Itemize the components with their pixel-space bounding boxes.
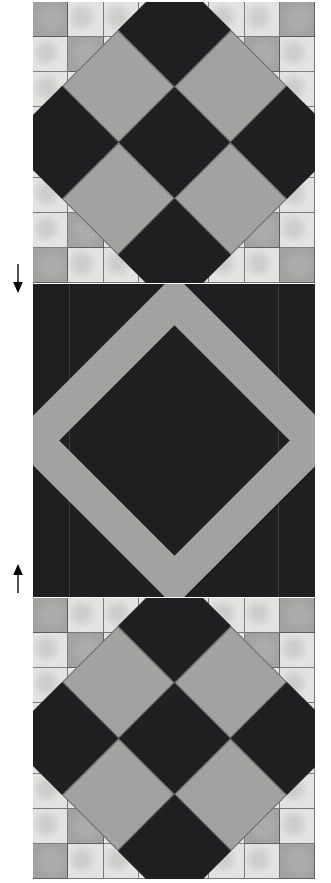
quilt-cell-r0-c0 [33, 598, 68, 633]
quilt-cell-r7-c7 [280, 248, 315, 283]
quilt-cell-r0-c6 [245, 2, 280, 37]
up-arrow-icon [10, 563, 26, 593]
quilt-cell-r7-c1 [68, 248, 103, 283]
quilt-cell-r0-c1 [68, 598, 103, 633]
quilt-cell-r1-c0 [33, 37, 68, 72]
quilt-cell-r7-c7 [280, 844, 315, 879]
down-arrow-icon [10, 264, 26, 294]
quilt-cell-r0-c0 [33, 2, 68, 37]
quilt-cell-r0-c7 [280, 598, 315, 633]
quilt-cell-r0-c7 [280, 2, 315, 37]
quilt-cell-r7-c0 [33, 248, 68, 283]
quilt-cell-r1-c0 [33, 633, 68, 668]
quilt-cell-r6-c0 [33, 213, 68, 248]
quilt-cell-r1-c7 [280, 37, 315, 72]
quilt-block-top [33, 2, 315, 283]
quilt-cell-r6-c7 [280, 213, 315, 248]
quilt-cell-r7-c6 [245, 844, 280, 879]
quilt-cell-r7-c1 [68, 844, 103, 879]
quilt-cell-r7-c6 [245, 248, 280, 283]
quilt-cell-r6-c7 [280, 809, 315, 844]
quilt-cell-r7-c0 [33, 844, 68, 879]
quilt-cell-r6-c0 [33, 809, 68, 844]
quilt-cell-r0-c1 [68, 2, 103, 37]
quilt-figure [0, 0, 331, 883]
quilt-cell-r1-c7 [280, 633, 315, 668]
quilt-block-bottom [33, 598, 315, 879]
quilt-cell-r0-c6 [245, 598, 280, 633]
quilt-block-middle [33, 284, 315, 597]
